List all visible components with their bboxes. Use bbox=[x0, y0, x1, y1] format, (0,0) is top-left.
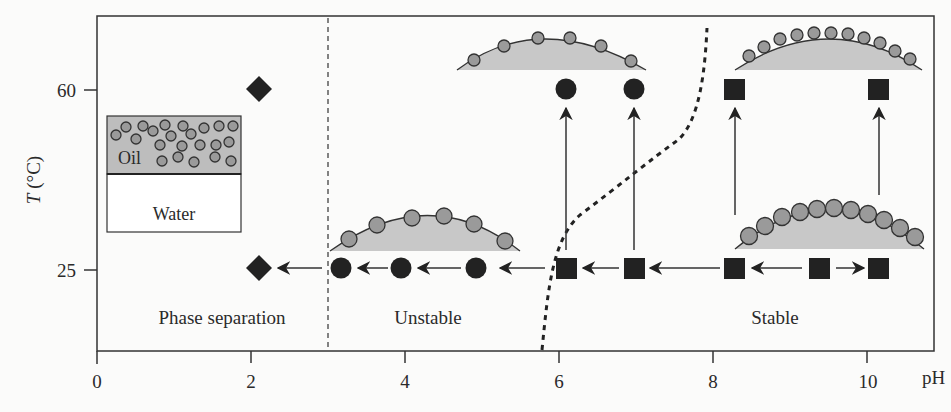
y-axis bbox=[84, 90, 97, 270]
x-tick-4: 4 bbox=[400, 371, 410, 392]
x-tick-6: 6 bbox=[554, 371, 564, 392]
markers-60c bbox=[246, 76, 889, 102]
square-marker bbox=[868, 258, 889, 279]
square-marker bbox=[624, 258, 645, 279]
droplet-unstable-60 bbox=[457, 32, 646, 70]
square-marker bbox=[724, 258, 745, 279]
region-label-phase-separation: Phase separation bbox=[158, 307, 286, 328]
x-axis bbox=[97, 351, 867, 364]
droplet-stable-60 bbox=[735, 27, 922, 70]
square-marker bbox=[724, 79, 745, 100]
circle-marker bbox=[331, 258, 352, 279]
y-axis-label: T (°C) bbox=[23, 156, 45, 204]
droplet-unstable-25 bbox=[330, 208, 520, 251]
circle-marker bbox=[624, 79, 645, 100]
y-tick-60: 60 bbox=[57, 80, 76, 101]
diamond-marker bbox=[246, 255, 272, 281]
region-label-stable: Stable bbox=[751, 307, 799, 328]
circle-marker bbox=[391, 258, 412, 279]
x-axis-label: pH bbox=[922, 367, 946, 388]
x-tick-8: 8 bbox=[708, 371, 718, 392]
oil-label: Oil bbox=[118, 148, 141, 168]
square-marker bbox=[809, 258, 830, 279]
diamond-marker bbox=[246, 76, 272, 102]
square-marker bbox=[868, 79, 889, 100]
x-tick-0: 0 bbox=[92, 371, 102, 392]
y-tick-25: 25 bbox=[57, 260, 76, 281]
phase-diagram: 60 25 T (°C) 0 2 4 6 8 10 pH Oil Wate bbox=[0, 0, 951, 412]
droplet-stable-25 bbox=[735, 200, 924, 250]
water-label: Water bbox=[153, 204, 196, 224]
x-tick-10: 10 bbox=[859, 371, 878, 392]
circle-marker bbox=[556, 79, 577, 100]
x-tick-2: 2 bbox=[246, 371, 256, 392]
circle-marker bbox=[466, 258, 487, 279]
region-label-unstable: Unstable bbox=[394, 307, 462, 328]
square-marker bbox=[556, 258, 577, 279]
